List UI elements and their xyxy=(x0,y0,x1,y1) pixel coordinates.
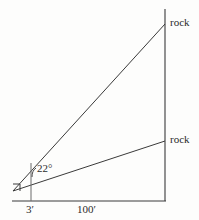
label-base-3-feet: 3′ xyxy=(26,204,34,215)
label-rock-upper: rock xyxy=(170,17,190,28)
rock-elevation-diagram: rock rock 22° 3′ 100′ xyxy=(0,0,199,220)
label-rock-lower: rock xyxy=(170,134,190,145)
label-base-100-feet: 100′ xyxy=(77,204,96,215)
label-angle-22-degrees: 22° xyxy=(37,163,52,174)
diagram-canvas xyxy=(0,0,199,220)
